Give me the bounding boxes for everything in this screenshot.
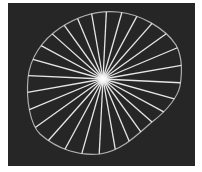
spoke-line <box>103 65 181 79</box>
spoke-line <box>103 79 115 149</box>
radial-spoke-figure <box>0 0 202 172</box>
spoke-line <box>41 46 103 79</box>
center-glow <box>96 72 110 86</box>
spoke-line <box>103 79 164 112</box>
spoke-line <box>65 79 103 149</box>
spoke-line <box>28 79 103 92</box>
spoke-line <box>92 14 103 79</box>
spoke-line <box>103 16 137 79</box>
